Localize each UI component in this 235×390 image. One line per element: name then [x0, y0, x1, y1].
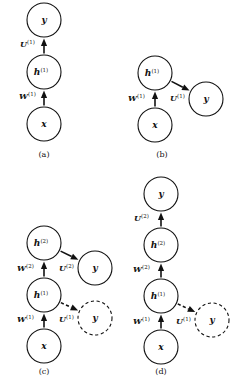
panel-d-edge-x-to-h1 — [158, 315, 164, 329]
panel-d-edge-x-to-h1-label: W(1) — [133, 316, 150, 326]
panel-c-edge-h1-to-h2-arrowhead — [41, 262, 47, 270]
panel-b-edge-x-to-h1 — [152, 92, 158, 107]
panel-d-edge-x-to-h1-arrowhead — [158, 315, 164, 323]
panel-c-y-dashed-node-label: y — [91, 313, 98, 323]
panel-b-edge-h1-to-y-line — [171, 81, 182, 87]
panel-c-edge-h1-to-h2-label: W(2) — [17, 263, 34, 273]
panel-b-caption: (b) — [156, 150, 167, 159]
panel-c-edge-h1-to-y-dashed-arrowhead — [70, 304, 78, 310]
panel-a-edge-x-to-h1 — [41, 91, 47, 106]
panel-c-edge-x-to-h1 — [41, 314, 47, 328]
panel-b-y-node-label: y — [202, 94, 209, 104]
panel-a-y-node-label: y — [40, 15, 47, 25]
panel-a-edge-h1-to-y — [41, 39, 47, 54]
panel-d-edge-h2-to-y-label: U(2) — [134, 213, 149, 223]
panel-a-edge-h1-to-y-arrowhead — [41, 39, 47, 47]
panel-c: U(2)W(2)U(1)W(1)h(2)yh(1)yx(c) — [17, 226, 112, 376]
panel-d-x-node-label: x — [157, 342, 164, 352]
panel-c-edge-x-to-h1-label: W(1) — [17, 314, 34, 324]
panel-c-edge-h1-to-y-dashed-line — [61, 303, 71, 308]
panel-d-y-node-label: y — [157, 189, 164, 199]
panel-c-y-node-label: y — [91, 263, 98, 273]
panel-c-x-node-label: x — [40, 341, 47, 351]
panel-d: U(2)W(2)U(1)W(1)yh(2)h(1)yx(d) — [133, 177, 229, 376]
panel-b-x-node-label: x — [151, 120, 158, 130]
panel-d-edge-h1-to-y-dashed-label: U(1) — [176, 316, 191, 326]
panel-b-edge-x-to-h1-arrowhead — [152, 92, 158, 100]
panel-d-caption: (d) — [155, 367, 166, 376]
panel-d-edge-h1-to-h2 — [158, 264, 164, 278]
panel-d-edge-h2-to-y-arrowhead — [158, 213, 164, 221]
panel-d-edge-h2-to-y — [158, 213, 164, 227]
panel-c-edge-h2-to-y — [61, 251, 79, 260]
panel-b: U(1)W(1)h(1)yx(b) — [128, 56, 223, 159]
panel-a-x-node-label: x — [40, 119, 47, 129]
panel-a-edge-x-to-h1-label: W(1) — [19, 91, 36, 101]
panel-b-edge-h1-to-y-label: U(1) — [170, 93, 185, 103]
panel-a: U(1)W(1)yh(1)x(a) — [19, 3, 61, 159]
panel-d-y-dashed-node-label: y — [208, 315, 215, 325]
panel-d-edge-h1-to-y-dashed-line — [178, 304, 189, 309]
panel-a-caption: (a) — [38, 150, 49, 159]
network-depth-figure: U(1)W(1)yh(1)x(a)U(1)W(1)h(1)yx(b)U(2)W(… — [0, 0, 235, 390]
panel-c-edge-h1-to-y-dashed — [61, 303, 78, 311]
panel-a-edge-h1-to-y-label: U(1) — [20, 39, 35, 49]
panel-d-edge-h1-to-y-dashed — [178, 304, 196, 312]
panel-c-edge-h2-to-y-line — [61, 251, 72, 256]
panel-c-edge-h1-to-y-dashed-label: U(1) — [59, 314, 74, 324]
panels-group: U(1)W(1)yh(1)x(a)U(1)W(1)h(1)yx(b)U(2)W(… — [17, 3, 229, 376]
panel-b-edge-h1-to-y — [171, 81, 189, 90]
panel-c-caption: (c) — [39, 367, 50, 376]
panel-d-edge-h1-to-h2-arrowhead — [158, 264, 164, 272]
panel-c-edge-h2-to-y-label: U(2) — [59, 263, 74, 273]
panel-a-edge-x-to-h1-arrowhead — [41, 91, 47, 99]
panel-c-edge-h1-to-h2 — [41, 262, 47, 277]
panel-d-edge-h1-to-h2-label: W(2) — [133, 264, 150, 274]
panel-b-edge-x-to-h1-label: W(1) — [128, 93, 145, 103]
panel-c-edge-x-to-h1-arrowhead — [41, 314, 47, 322]
